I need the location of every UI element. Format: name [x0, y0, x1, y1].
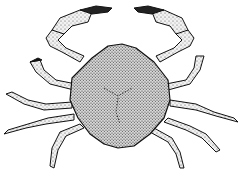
crab-illustration: crab	[0, 0, 243, 179]
left-legs	[4, 58, 84, 168]
crab-drawing	[0, 0, 243, 179]
